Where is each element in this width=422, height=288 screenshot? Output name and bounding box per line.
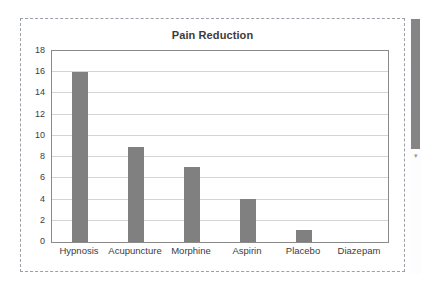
x-axis-tick-label: Acupuncture [108, 245, 161, 256]
y-axis: 181614121086420 [21, 50, 49, 243]
y-axis-tick-label: 18 [35, 45, 45, 55]
gridline [52, 156, 388, 157]
y-axis-tick-label: 10 [35, 130, 45, 140]
x-axis-tick-label: Hypnosis [59, 245, 98, 256]
gridline [52, 71, 388, 72]
x-axis-tick-label: Aspirin [232, 245, 261, 256]
gridline [52, 220, 388, 221]
chart-title: Pain Reduction [21, 29, 404, 41]
y-axis-tick-label: 4 [40, 194, 45, 204]
y-axis-tick-label: 6 [40, 172, 45, 182]
bar [240, 199, 256, 243]
x-axis-tick-label: Diazepam [338, 245, 381, 256]
chevron-down-icon[interactable]: ▾ [412, 152, 419, 159]
x-axis-tick-label: Morphine [171, 245, 211, 256]
bar [128, 147, 144, 243]
y-axis-tick-label: 8 [40, 151, 45, 161]
gridline [52, 114, 388, 115]
bar [296, 230, 312, 242]
vertical-scrollbar[interactable]: ▾ [410, 16, 421, 274]
scrollbar-thumb[interactable] [411, 19, 420, 149]
gridline [52, 177, 388, 178]
x-axis: HypnosisAcupunctureMorphineAspirinPlaceb… [51, 245, 389, 261]
y-axis-tick-label: 2 [40, 215, 45, 225]
y-axis-tick-label: 0 [40, 236, 45, 246]
bar [184, 167, 200, 242]
y-axis-tick-label: 12 [35, 109, 45, 119]
gridline [52, 199, 388, 200]
gridline [52, 135, 388, 136]
y-axis-tick-label: 14 [35, 87, 45, 97]
x-axis-tick-label: Placebo [286, 245, 320, 256]
plot-area [51, 50, 389, 243]
gridline [52, 92, 388, 93]
bar [72, 72, 88, 242]
chart-object[interactable]: Pain Reduction 181614121086420 HypnosisA… [20, 18, 405, 272]
y-axis-tick-label: 16 [35, 66, 45, 76]
